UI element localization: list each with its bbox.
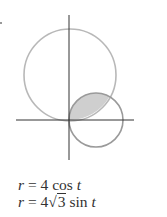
eq1-equals: = <box>28 176 37 193</box>
eq1-lhs: r <box>18 176 24 193</box>
eq2-coef: 4 <box>41 193 49 210</box>
eq2-func: sin <box>69 193 87 210</box>
polar-figure <box>0 0 167 170</box>
eq2-radicand: 3 <box>57 193 66 209</box>
eq2-arg: t <box>91 193 95 210</box>
eq1-func: cos <box>52 176 73 193</box>
eq2-lhs: r <box>18 193 24 210</box>
equation-2: r = 4√3 sin t <box>18 193 96 210</box>
eq1-coef: 4 <box>41 176 49 193</box>
eq1-arg: t <box>77 176 81 193</box>
large-circle-curve <box>24 29 116 121</box>
equation-block: r = 4 cos t r = 4√3 sin t <box>18 176 96 210</box>
sqrt-symbol: √3 <box>48 193 65 210</box>
eq2-equals: = <box>28 193 37 210</box>
equation-1: r = 4 cos t <box>18 176 96 193</box>
